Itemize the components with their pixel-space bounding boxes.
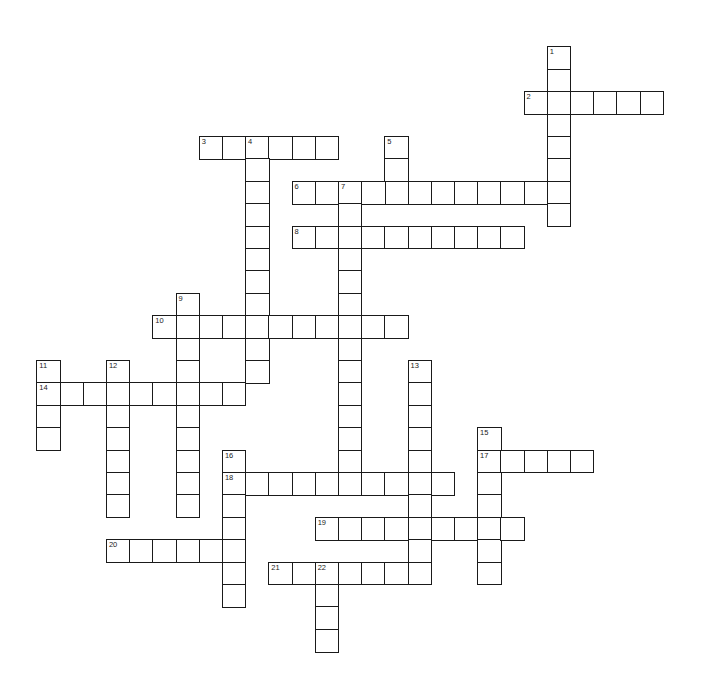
crossword-cell[interactable] bbox=[245, 158, 270, 182]
crossword-cell[interactable] bbox=[431, 226, 456, 250]
crossword-cell[interactable]: 16 bbox=[222, 450, 247, 474]
crossword-cell[interactable] bbox=[338, 405, 363, 429]
crossword-cell[interactable] bbox=[408, 450, 433, 474]
crossword-cell[interactable] bbox=[83, 382, 108, 406]
crossword-cell[interactable] bbox=[477, 226, 502, 250]
crossword-cell[interactable] bbox=[176, 472, 201, 496]
crossword-cell[interactable] bbox=[315, 629, 340, 653]
crossword-cell[interactable]: 7 bbox=[338, 181, 363, 205]
crossword-cell[interactable] bbox=[292, 315, 317, 339]
crossword-cell[interactable]: 2 bbox=[524, 91, 549, 115]
crossword-cell[interactable]: 1 bbox=[547, 46, 572, 70]
crossword-cell[interactable] bbox=[315, 606, 340, 630]
crossword-cell[interactable] bbox=[547, 91, 572, 115]
crossword-cell[interactable] bbox=[408, 472, 433, 496]
crossword-cell[interactable]: 8 bbox=[292, 226, 317, 250]
crossword-cell[interactable] bbox=[152, 539, 177, 563]
crossword-cell[interactable]: 10 bbox=[152, 315, 177, 339]
crossword-cell[interactable] bbox=[245, 338, 270, 362]
crossword-cell[interactable] bbox=[338, 427, 363, 451]
crossword-cell[interactable] bbox=[384, 181, 409, 205]
crossword-cell[interactable] bbox=[384, 562, 409, 586]
crossword-cell[interactable] bbox=[547, 114, 572, 138]
crossword-cell[interactable]: 21 bbox=[268, 562, 293, 586]
crossword-cell[interactable] bbox=[477, 562, 502, 586]
crossword-cell[interactable] bbox=[361, 562, 386, 586]
crossword-cell[interactable]: 17 bbox=[477, 450, 502, 474]
crossword-cell[interactable] bbox=[384, 226, 409, 250]
crossword-cell[interactable] bbox=[338, 338, 363, 362]
crossword-cell[interactable] bbox=[106, 382, 131, 406]
crossword-cell[interactable] bbox=[338, 517, 363, 541]
crossword-cell[interactable] bbox=[408, 181, 433, 205]
crossword-cell[interactable] bbox=[176, 539, 201, 563]
crossword-cell[interactable] bbox=[616, 91, 641, 115]
crossword-cell[interactable] bbox=[500, 181, 525, 205]
crossword-cell[interactable] bbox=[338, 472, 363, 496]
crossword-cell[interactable] bbox=[315, 136, 340, 160]
crossword-cell[interactable] bbox=[315, 472, 340, 496]
crossword-cell[interactable] bbox=[361, 472, 386, 496]
crossword-cell[interactable] bbox=[222, 539, 247, 563]
crossword-cell[interactable] bbox=[361, 315, 386, 339]
crossword-cell[interactable] bbox=[245, 315, 270, 339]
crossword-cell[interactable]: 11 bbox=[36, 360, 61, 384]
crossword-cell[interactable] bbox=[199, 315, 224, 339]
crossword-cell[interactable] bbox=[338, 382, 363, 406]
crossword-cell[interactable] bbox=[176, 360, 201, 384]
crossword-cell[interactable] bbox=[222, 494, 247, 518]
crossword-cell[interactable] bbox=[570, 91, 595, 115]
crossword-cell[interactable] bbox=[245, 203, 270, 227]
crossword-cell[interactable] bbox=[361, 517, 386, 541]
crossword-cell[interactable] bbox=[431, 517, 456, 541]
crossword-cell[interactable] bbox=[176, 450, 201, 474]
crossword-cell[interactable] bbox=[222, 382, 247, 406]
crossword-cell[interactable]: 4 bbox=[245, 136, 270, 160]
crossword-cell[interactable] bbox=[338, 248, 363, 272]
crossword-cell[interactable] bbox=[500, 226, 525, 250]
crossword-cell[interactable]: 14 bbox=[36, 382, 61, 406]
crossword-cell[interactable] bbox=[477, 539, 502, 563]
crossword-cell[interactable] bbox=[245, 270, 270, 294]
crossword-cell[interactable] bbox=[176, 427, 201, 451]
crossword-cell[interactable] bbox=[292, 136, 317, 160]
crossword-cell[interactable] bbox=[222, 315, 247, 339]
crossword-cell[interactable]: 13 bbox=[408, 360, 433, 384]
crossword-cell[interactable] bbox=[36, 427, 61, 451]
crossword-cell[interactable] bbox=[524, 181, 549, 205]
crossword-cell[interactable] bbox=[199, 382, 224, 406]
crossword-cell[interactable]: 6 bbox=[292, 181, 317, 205]
crossword-cell[interactable] bbox=[338, 450, 363, 474]
crossword-cell[interactable] bbox=[384, 472, 409, 496]
crossword-cell[interactable] bbox=[176, 405, 201, 429]
crossword-cell[interactable] bbox=[315, 226, 340, 250]
crossword-cell[interactable] bbox=[106, 494, 131, 518]
crossword-cell[interactable] bbox=[477, 181, 502, 205]
crossword-cell[interactable] bbox=[106, 472, 131, 496]
crossword-cell[interactable] bbox=[431, 181, 456, 205]
crossword-cell[interactable] bbox=[454, 226, 479, 250]
crossword-cell[interactable]: 15 bbox=[477, 427, 502, 451]
crossword-cell[interactable] bbox=[292, 472, 317, 496]
crossword-cell[interactable] bbox=[408, 494, 433, 518]
crossword-cell[interactable] bbox=[222, 136, 247, 160]
crossword-cell[interactable]: 12 bbox=[106, 360, 131, 384]
crossword-cell[interactable] bbox=[268, 472, 293, 496]
crossword-cell[interactable] bbox=[570, 450, 595, 474]
crossword-cell[interactable] bbox=[454, 181, 479, 205]
crossword-cell[interactable] bbox=[500, 517, 525, 541]
crossword-cell[interactable] bbox=[176, 315, 201, 339]
crossword-cell[interactable] bbox=[547, 203, 572, 227]
crossword-cell[interactable] bbox=[222, 584, 247, 608]
crossword-cell[interactable] bbox=[547, 181, 572, 205]
crossword-cell[interactable] bbox=[477, 494, 502, 518]
crossword-cell[interactable] bbox=[129, 539, 154, 563]
crossword-cell[interactable] bbox=[408, 427, 433, 451]
crossword-cell[interactable] bbox=[547, 136, 572, 160]
crossword-cell[interactable]: 9 bbox=[176, 293, 201, 317]
crossword-cell[interactable] bbox=[106, 427, 131, 451]
crossword-cell[interactable] bbox=[477, 517, 502, 541]
crossword-cell[interactable] bbox=[338, 203, 363, 227]
crossword-cell[interactable] bbox=[361, 226, 386, 250]
crossword-cell[interactable] bbox=[36, 405, 61, 429]
